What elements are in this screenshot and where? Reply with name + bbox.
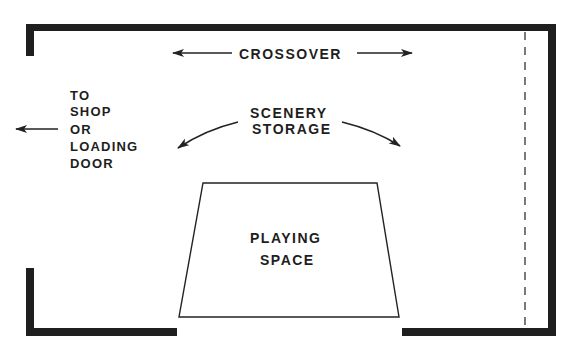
playing-space-label-line2: SPACE: [260, 252, 315, 268]
wall-top-right: [278, 24, 556, 31]
exit-label-line3: OR: [70, 122, 92, 137]
scenery-label-line2: STORAGE: [252, 121, 331, 137]
crossover-label: CROSSOVER: [239, 46, 342, 62]
wall-bottom-right: [402, 328, 556, 336]
exit-label-line2: SHOP: [70, 104, 112, 119]
wall-left-lower: [26, 268, 34, 336]
exit-label-line1: TO: [70, 88, 90, 103]
scenery-label-line1: SCENERY: [250, 105, 328, 121]
exit-label-line5: DOOR: [70, 156, 114, 171]
walls: [26, 24, 556, 336]
exit-label: TO SHOP OR LOADING DOOR: [70, 88, 138, 171]
playing-space-area: [179, 183, 399, 317]
playing-space-label-line1: PLAYING: [250, 230, 321, 246]
wall-left-upper: [26, 24, 34, 56]
stage-floor-plan: CROSSOVER SCENERY STORAGE TO SHOP OR LOA…: [0, 0, 571, 355]
wall-top: [26, 24, 278, 31]
wall-bottom-left: [26, 328, 177, 336]
scenery-arrow-left: [178, 122, 238, 148]
scenery-arrow-right: [342, 122, 400, 146]
exit-label-line4: LOADING: [70, 139, 138, 154]
wall-right: [548, 24, 556, 336]
